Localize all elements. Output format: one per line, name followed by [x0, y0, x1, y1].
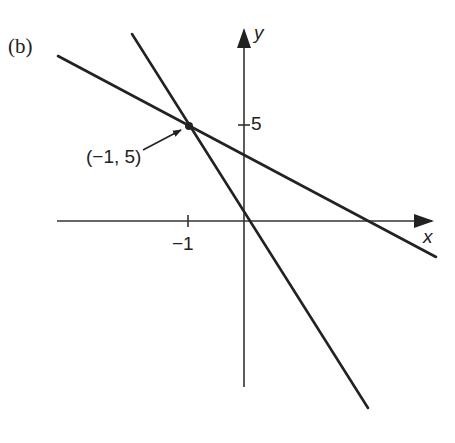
- annotation-arrow: [143, 130, 181, 150]
- x-axis-label: x: [423, 226, 433, 248]
- diagram-canvas: [0, 0, 455, 443]
- panel-label: (b): [8, 34, 33, 59]
- intersection-point: [185, 122, 193, 130]
- point-annotation: (−1, 5): [86, 146, 141, 168]
- x-tick-label: −1: [172, 233, 194, 255]
- y-tick-label: 5: [251, 113, 262, 135]
- y-axis-label: y: [254, 22, 264, 44]
